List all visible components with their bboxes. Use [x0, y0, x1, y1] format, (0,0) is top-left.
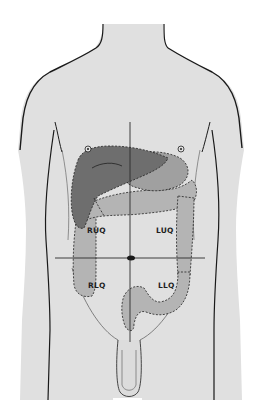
nipple-left: [178, 146, 184, 152]
torso-illustration: [0, 0, 255, 412]
umbilicus: [127, 256, 135, 261]
quadrant-label-luq: LUQ: [156, 227, 174, 235]
quadrant-label-llq: LLQ: [158, 282, 175, 290]
nipple-right: [85, 146, 91, 152]
quadrant-label-rlq: RLQ: [88, 282, 106, 290]
abdominal-quadrants-diagram: RUQ LUQ RLQ LLQ: [0, 0, 255, 412]
genital-outline: [117, 340, 142, 397]
quadrant-label-ruq: RUQ: [87, 227, 106, 235]
